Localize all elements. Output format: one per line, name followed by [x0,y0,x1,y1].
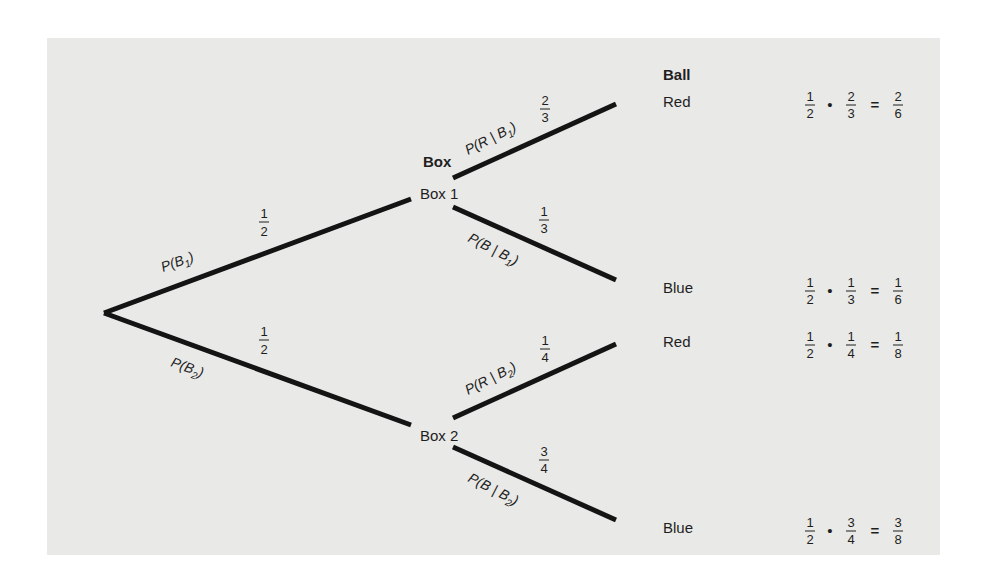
outcome-box1-red: Red [663,93,691,110]
outcome-box2-red: Red [663,333,691,350]
svg-text:2: 2 [806,106,813,121]
svg-text:8: 8 [894,346,901,361]
svg-text:2: 2 [847,89,854,104]
svg-text:2: 2 [260,342,267,357]
branch-line-box1 [104,199,411,313]
svg-text:4: 4 [541,350,548,365]
probability-tree: Box Ball Box 1 Box 2 Red Blue Red Blue P… [0,0,987,581]
svg-text:1: 1 [806,329,813,344]
svg-text:1: 1 [260,324,267,339]
node-box-2: Box 2 [420,427,458,444]
svg-text:3: 3 [541,110,548,125]
product-row-2: 1 2 • 1 3 = 1 6 [805,275,903,307]
svg-text:=: = [871,282,880,299]
svg-text:1: 1 [806,89,813,104]
svg-text:6: 6 [894,292,901,307]
ball-column-header: Ball [663,66,691,83]
fraction-b2: 1 2 [259,324,269,357]
svg-text:2: 2 [806,346,813,361]
svg-text:=: = [871,336,880,353]
svg-text:•: • [827,282,832,299]
svg-text:4: 4 [540,461,547,476]
svg-text:2: 2 [260,224,267,239]
svg-text:2: 2 [806,532,813,547]
fraction-r-given-b1: 2 3 [540,93,550,125]
svg-text:1: 1 [847,275,854,290]
svg-text:=: = [871,522,880,539]
svg-text:1: 1 [806,515,813,530]
svg-text:1: 1 [894,275,901,290]
svg-text:3: 3 [540,444,547,459]
product-row-3: 1 2 • 1 4 = 1 8 [805,329,903,361]
svg-text:P(B1): P(B1) [159,248,197,277]
box-column-header: Box [423,153,452,170]
svg-text:2: 2 [541,93,548,108]
fraction-r-given-b2: 1 4 [540,333,550,365]
svg-text:3: 3 [894,515,901,530]
node-box-1: Box 1 [420,185,458,202]
branch-line-box2 [104,313,411,425]
svg-text:3: 3 [847,515,854,530]
label-p-b2: P(B2) [168,354,206,383]
svg-text:•: • [827,336,832,353]
svg-text:1: 1 [541,333,548,348]
svg-text:3: 3 [847,292,854,307]
svg-text:4: 4 [847,532,854,547]
product-row-1: 1 2 • 2 3 = 2 6 [805,89,903,121]
fraction-b1: 1 2 [259,206,269,239]
svg-text:1: 1 [260,206,267,221]
product-row-4: 1 2 • 3 4 = 3 8 [805,515,903,547]
svg-text:•: • [827,96,832,113]
svg-text:1: 1 [894,329,901,344]
svg-text:=: = [871,96,880,113]
svg-text:1: 1 [806,275,813,290]
svg-text:2: 2 [806,292,813,307]
svg-text:6: 6 [894,106,901,121]
svg-text:•: • [827,522,832,539]
svg-text:1: 1 [540,204,547,219]
svg-text:3: 3 [847,106,854,121]
fraction-b-given-b2: 3 4 [539,444,549,476]
svg-text:4: 4 [847,346,854,361]
label-p-b1: P(B1) [159,248,197,277]
svg-text:3: 3 [540,221,547,236]
svg-text:2: 2 [894,89,901,104]
svg-text:8: 8 [894,532,901,547]
outcome-box2-blue: Blue [663,519,693,536]
svg-text:1: 1 [847,329,854,344]
outcome-box1-blue: Blue [663,279,693,296]
svg-text:P(B2): P(B2) [168,354,206,383]
fraction-b-given-b1: 1 3 [539,204,549,236]
